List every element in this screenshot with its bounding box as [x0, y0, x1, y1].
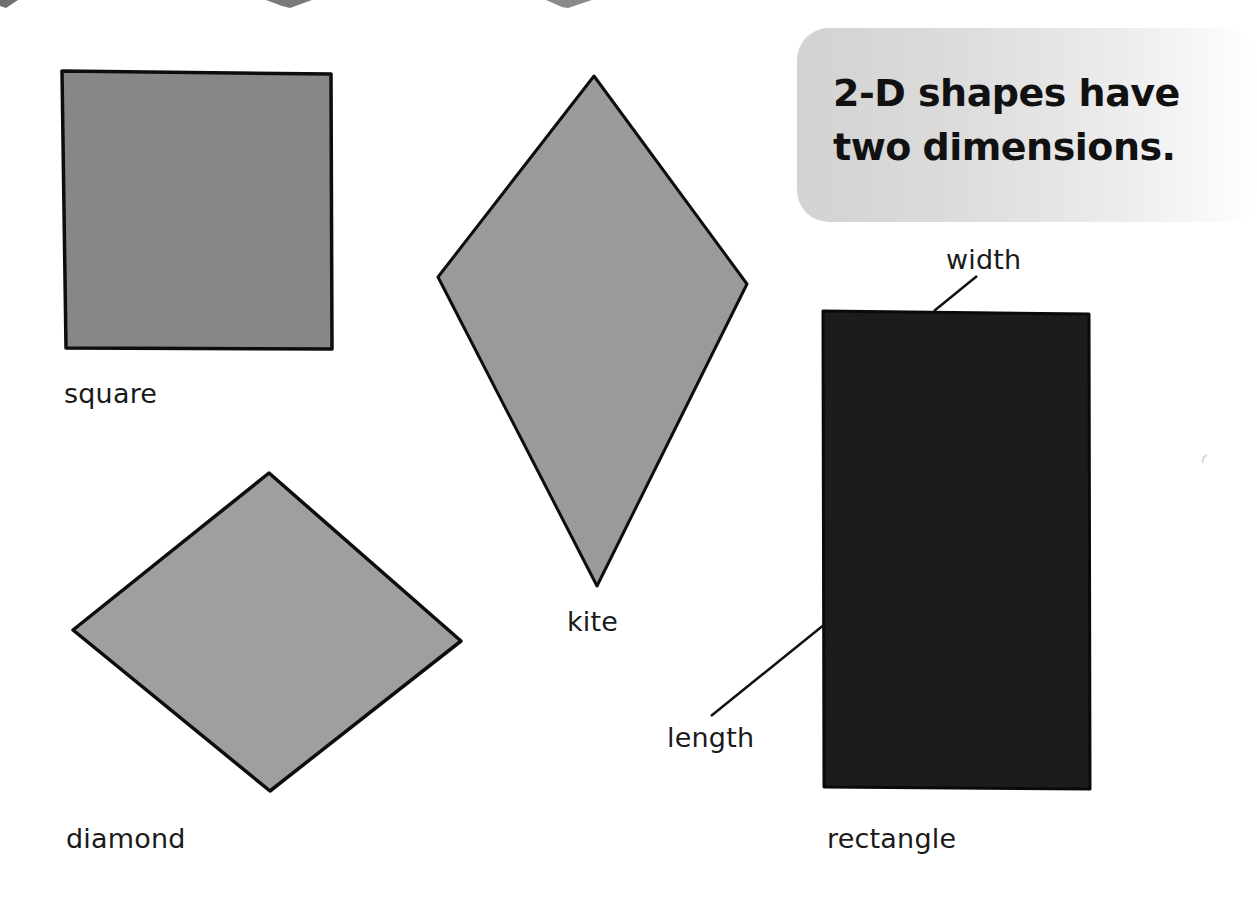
diamond-fill-icon — [73, 473, 461, 791]
diamond-shape — [73, 473, 461, 791]
square-fill-icon — [62, 71, 332, 349]
page-title: 2-D shapes have two dimensions. — [833, 66, 1180, 174]
top-edge-fragments — [0, 0, 592, 8]
diamond-label: diamond — [66, 823, 186, 855]
kite-shape — [438, 76, 747, 586]
square-label: square — [64, 378, 157, 410]
square-shape — [62, 71, 332, 349]
length-leader-line-icon — [711, 624, 825, 716]
title-line-2-bold: dimensions. — [922, 125, 1175, 169]
fragment-mid-icon — [266, 0, 312, 8]
rectangle-shape — [823, 311, 1090, 789]
width-annotation: width — [946, 244, 1021, 276]
edge-mark-icon — [1203, 455, 1207, 463]
fragment-left-icon — [0, 0, 18, 8]
kite-label: kite — [567, 606, 618, 638]
title-line-1: 2-D shapes have — [833, 66, 1180, 120]
rectangle-label: rectangle — [827, 823, 956, 855]
title-line-2-normal: two — [833, 125, 911, 169]
kite-fill-icon — [438, 76, 747, 586]
width-leader-line-icon — [934, 276, 977, 311]
rectangle-fill-icon — [823, 311, 1090, 789]
title-line-2: two dimensions. — [833, 120, 1180, 174]
fragment-right-icon — [546, 0, 592, 8]
length-annotation: length — [667, 722, 754, 754]
